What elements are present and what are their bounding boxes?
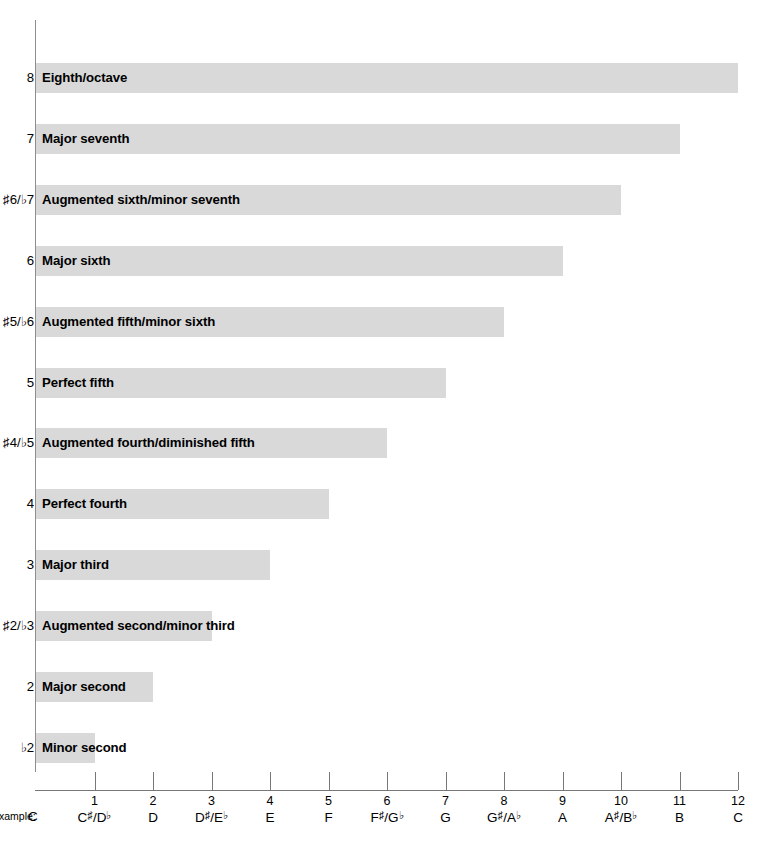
y-tick-label: 4 <box>0 489 34 519</box>
bar-label: Minor second <box>42 733 127 763</box>
x-tick-mark <box>446 772 447 790</box>
y-tick-label: 5 <box>0 368 34 398</box>
x-tick-mark <box>563 772 564 790</box>
bar-label: Augmented fourth/diminished fifth <box>42 428 255 458</box>
bar-label: Perfect fifth <box>42 368 114 398</box>
bar-label: Major seventh <box>42 124 129 154</box>
x-tick-number: 12 <box>703 794 773 808</box>
bar-label: Major second <box>42 672 126 702</box>
y-tick-label: 2 <box>0 672 34 702</box>
x-tick-mark <box>387 772 388 790</box>
y-tick-label: 7 <box>0 124 34 154</box>
x-tick-mark <box>738 772 739 790</box>
y-tick-label: ♭2 <box>0 733 34 763</box>
x-tick-note-name: C <box>693 810 781 825</box>
bar-label: Major third <box>42 550 109 580</box>
y-tick-label: ♯4/♭5 <box>0 428 34 458</box>
y-tick-label: 3 <box>0 550 34 580</box>
bar-label: Major sixth <box>42 246 111 276</box>
x-tick-mark <box>153 772 154 790</box>
example-root-note: C <box>28 809 38 824</box>
y-tick-label: 8 <box>0 63 34 93</box>
bar-label: Augmented fifth/minor sixth <box>42 307 215 337</box>
bar-label: Augmented second/minor third <box>42 611 235 641</box>
x-tick-mark <box>621 772 622 790</box>
bar <box>36 63 738 93</box>
y-tick-label: 6 <box>0 246 34 276</box>
x-tick-mark <box>95 772 96 790</box>
x-tick-mark <box>212 772 213 790</box>
bar-label: Augmented sixth/minor seventh <box>42 185 240 215</box>
bar <box>36 124 680 154</box>
interval-chart: 8Eighth/octave7Major seventh♯6/♭7Augment… <box>0 0 781 858</box>
bar-label: Eighth/octave <box>42 63 127 93</box>
bar-label: Perfect fourth <box>42 489 127 519</box>
y-tick-label: ♯2/♭3 <box>0 611 34 641</box>
y-tick-label: ♯5/♭6 <box>0 307 34 337</box>
bar <box>36 246 563 276</box>
y-tick-label: ♯6/♭7 <box>0 185 34 215</box>
x-tick-mark <box>270 772 271 790</box>
x-tick-mark <box>680 772 681 790</box>
x-tick-mark <box>329 772 330 790</box>
x-axis-line <box>35 790 738 791</box>
x-tick-mark <box>504 772 505 790</box>
